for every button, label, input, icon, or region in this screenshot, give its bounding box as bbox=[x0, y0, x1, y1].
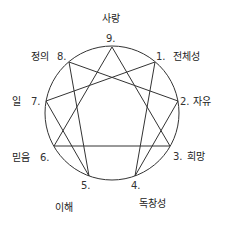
label-2-name: 자유 bbox=[193, 97, 211, 107]
label-9-num: 9. bbox=[106, 34, 116, 44]
label-7-name: 일 bbox=[12, 97, 21, 107]
label-5-num: 5. bbox=[81, 181, 91, 191]
label-6-num: 6. bbox=[40, 153, 50, 163]
label-9-name: 사랑 bbox=[102, 14, 120, 24]
inner-triangle bbox=[54, 47, 170, 146]
label-8-name: 정의 bbox=[31, 52, 49, 62]
label-4-num: 4. bbox=[131, 181, 141, 191]
label-8-num: 8. bbox=[57, 52, 67, 62]
label-4-name: 독창성 bbox=[139, 199, 166, 209]
label-6-name: 믿음 bbox=[12, 153, 30, 163]
label-3-num: 3. bbox=[173, 152, 183, 162]
label-1-num: 1. bbox=[156, 52, 166, 62]
enneagram-circle bbox=[45, 46, 179, 180]
label-5-name: 이해 bbox=[55, 203, 73, 213]
inner-hexad bbox=[46, 62, 178, 176]
label-7-num: 7. bbox=[31, 97, 41, 107]
label-1-name: 전체성 bbox=[173, 52, 200, 62]
label-3-name: 희망 bbox=[187, 152, 205, 162]
label-2-num: 2. bbox=[180, 97, 190, 107]
